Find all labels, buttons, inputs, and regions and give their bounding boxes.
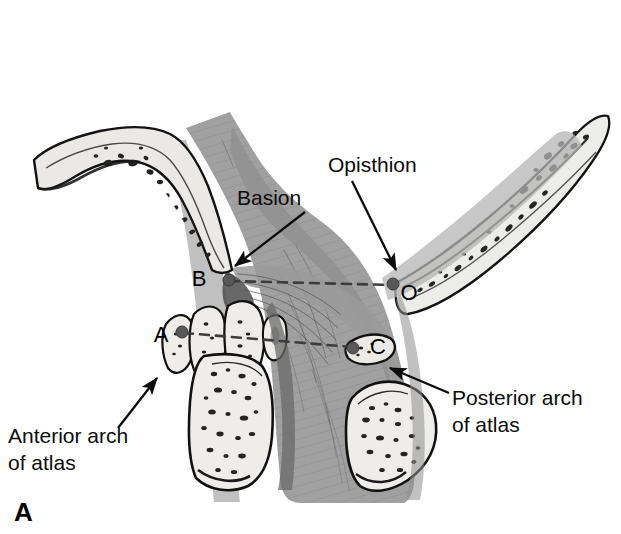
basion-label: Basion xyxy=(237,186,301,209)
anterior-arch-arrow xyxy=(118,378,157,428)
point-a-marker[interactable] xyxy=(176,326,188,338)
opisthion-arrow xyxy=(352,181,396,270)
posterior-arch-label-line2: of atlas xyxy=(452,413,520,436)
point-c-marker[interactable] xyxy=(347,342,359,354)
anterior-arch-label-line2: of atlas xyxy=(8,451,76,474)
point-o-marker[interactable] xyxy=(387,278,399,290)
posterior-arch-label-line1: Posterior arch xyxy=(452,386,583,409)
panel-letter: A xyxy=(14,497,33,527)
anterior-arch-label-line1: Anterior arch xyxy=(8,424,128,447)
anatomical-figure: B O A C Basion Opisthion Anterior arch o… xyxy=(0,0,621,534)
point-a-label: A xyxy=(154,322,169,347)
point-o-label: O xyxy=(400,280,417,305)
illustration-canvas: B O A C Basion Opisthion Anterior arch o… xyxy=(0,0,621,534)
point-c-label: C xyxy=(370,334,386,359)
point-b-label: B xyxy=(192,266,207,291)
point-b-marker[interactable] xyxy=(223,274,235,286)
opisthion-label: Opisthion xyxy=(328,153,417,176)
axis-body xyxy=(189,354,273,490)
